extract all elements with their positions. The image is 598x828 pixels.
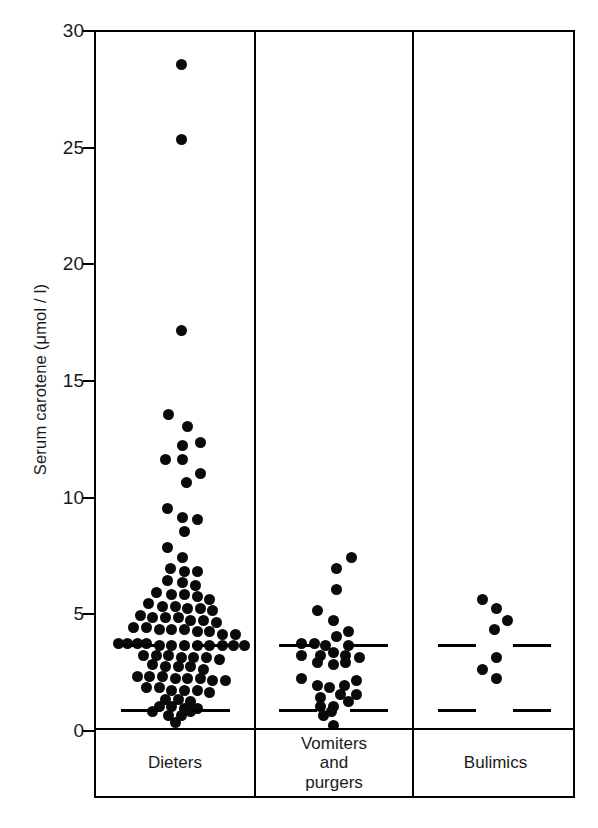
serum-carotene-dot-plot-figure: Serum carotene (μmol / l) 051015202530 D… (0, 0, 598, 828)
panel-divider-2 (412, 32, 414, 728)
y-tick-mark-15 (83, 380, 94, 382)
y-tick-mark-5 (83, 613, 94, 615)
panel-divider-layer (96, 32, 573, 728)
y-tick-mark-30 (83, 30, 94, 32)
group-label-text: Vomitersandpurgers (301, 734, 367, 791)
y-tick-mark-25 (83, 147, 94, 149)
group-label-vomiters-and-purgers: Vomitersandpurgers (254, 730, 412, 796)
plot-area (94, 30, 575, 730)
y-tick-mark-0 (83, 730, 94, 732)
panel-divider-1 (254, 32, 256, 728)
group-label-text: Dieters (148, 753, 202, 772)
y-tick-mark-20 (83, 263, 94, 265)
y-tick-mark-10 (83, 497, 94, 499)
group-label-dieters: Dieters (96, 730, 254, 796)
group-label-bulimics: Bulimics (412, 730, 577, 796)
group-label-band: DietersVomitersandpurgersBulimics (94, 730, 575, 798)
group-label-text: Bulimics (464, 753, 527, 772)
